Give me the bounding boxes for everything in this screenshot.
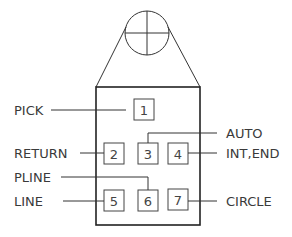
label-circle: CIRCLE bbox=[226, 194, 272, 209]
leader-pline bbox=[61, 177, 148, 190]
crosshair-lens-icon bbox=[125, 11, 169, 55]
button-7[interactable]: 7 bbox=[168, 189, 188, 210]
button-6[interactable]: 6 bbox=[138, 190, 158, 211]
lens-connector-right bbox=[168, 27, 200, 87]
button-5[interactable]: 5 bbox=[104, 190, 124, 211]
label-pline: PLINE bbox=[14, 170, 51, 185]
svg-text:6: 6 bbox=[144, 194, 152, 209]
svg-text:4: 4 bbox=[174, 147, 182, 162]
button-2[interactable]: 2 bbox=[104, 143, 124, 164]
label-line: LINE bbox=[14, 194, 43, 209]
label-int-end: INT,END bbox=[226, 146, 280, 161]
label-auto: AUTO bbox=[226, 126, 263, 141]
button-3[interactable]: 3 bbox=[138, 143, 158, 164]
label-return: RETURN bbox=[14, 146, 67, 161]
puck-diagram: 1 2 3 4 5 6 7 PICK AUTO RETURN INT,END P… bbox=[0, 0, 292, 237]
button-4[interactable]: 4 bbox=[168, 143, 188, 164]
svg-text:5: 5 bbox=[110, 194, 118, 209]
label-pick: PICK bbox=[14, 103, 44, 118]
svg-text:2: 2 bbox=[110, 147, 118, 162]
svg-text:3: 3 bbox=[144, 147, 152, 162]
svg-text:7: 7 bbox=[174, 193, 182, 208]
svg-text:1: 1 bbox=[140, 103, 148, 118]
button-1[interactable]: 1 bbox=[134, 99, 154, 120]
leader-auto bbox=[148, 133, 217, 143]
lens-connector-left bbox=[96, 27, 126, 87]
